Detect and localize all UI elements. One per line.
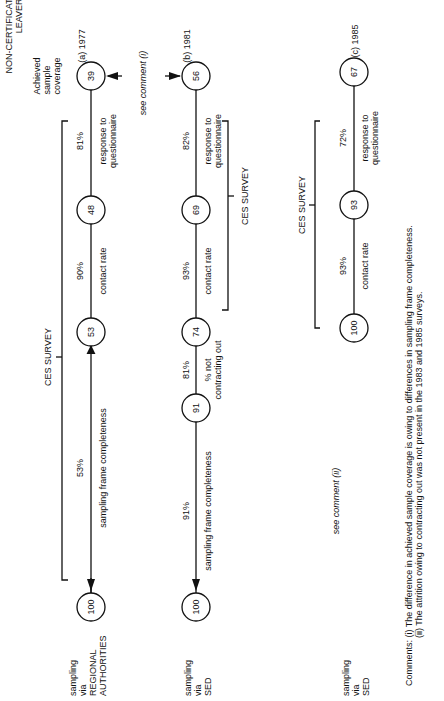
comments: Comments: (i) The difference in achieved… — [404, 225, 424, 686]
source-a-line4: AUTHORITIES — [98, 635, 108, 696]
pct-b-1: 91% — [181, 502, 191, 520]
pct-c-2: 72% — [338, 129, 348, 147]
pct-b-2: 81% — [181, 361, 191, 379]
source-label-a: sampling via REGIONAL AUTHORITIES — [68, 635, 108, 696]
source-b-line1: sampling — [183, 660, 193, 696]
pct-a-3: 81% — [75, 132, 85, 150]
step-b-2-line1: % not — [203, 340, 213, 399]
comments-prefix: Comments: — [404, 640, 414, 686]
node-b-start: 100 — [191, 599, 201, 614]
bracket-label-c: CES SURVEY — [297, 176, 307, 234]
coverage-label-line1: Achieved — [32, 57, 42, 94]
node-a-3: 48 — [86, 205, 96, 215]
coverage-label-line2: sample — [42, 57, 52, 94]
group-title: NON-CERTIFICATE LEAVERS — [4, 0, 24, 74]
step-b-4: response to questionnaire — [203, 114, 223, 168]
survey-attrition-diagram: NON-CERTIFICATE LEAVERS Achieved sample … — [0, 0, 444, 701]
year-label-c: (c) 1985 — [350, 24, 360, 57]
source-c-line3: SED — [361, 660, 371, 696]
pct-b-3: 93% — [181, 262, 191, 280]
step-c-2: response to questionnaire — [360, 111, 380, 165]
node-a-final: 39 — [86, 71, 96, 81]
step-b-3: contact rate — [203, 247, 213, 294]
node-b-4: 69 — [191, 205, 201, 215]
pct-a-1: 53% — [75, 459, 85, 477]
step-b-2: % not contracting out — [203, 340, 223, 399]
step-c-2-line1: response to — [360, 111, 370, 165]
node-a-2: 53 — [86, 327, 96, 337]
step-b-4-line2: questionnaire — [213, 114, 223, 168]
coverage-label: Achieved sample coverage — [32, 57, 62, 94]
step-a-2: contact rate — [98, 247, 108, 294]
source-a-line3: REGIONAL — [88, 635, 98, 696]
node-b-final: 56 — [191, 71, 201, 81]
node-c-2: 93 — [349, 200, 359, 210]
pct-c-1: 93% — [338, 257, 348, 275]
step-c-2-line2: questionnaire — [370, 111, 380, 165]
step-c-1: contact rate — [360, 242, 370, 289]
source-label-b: sampling via SED — [183, 660, 213, 696]
source-b-line3: SED — [203, 660, 213, 696]
comment-i: (i) The difference in achieved sample co… — [404, 225, 414, 637]
group-title-line2: LEAVERS — [14, 0, 24, 74]
source-b-line2: via — [193, 660, 203, 696]
step-a-3-line2: questionnaire — [108, 114, 118, 168]
source-a-line2: via — [78, 635, 88, 696]
source-a-line1: sampling — [68, 635, 78, 696]
node-c-start: 100 — [349, 320, 359, 335]
group-title-line1: NON-CERTIFICATE — [4, 0, 14, 74]
year-label-a: (a) 1977 — [77, 29, 87, 63]
step-b-4-line1: response to — [203, 114, 213, 168]
bracket-label-a: CES SURVEY — [43, 328, 53, 386]
node-c-final: 67 — [349, 67, 359, 77]
bracket-label-b: CES SURVEY — [240, 167, 250, 225]
step-b-1: sampling frame completeness — [203, 451, 213, 571]
step-a-3: response to questionnaire — [98, 114, 118, 168]
pct-a-2: 90% — [75, 262, 85, 280]
pct-b-4: 82% — [181, 132, 191, 150]
step-a-3-line1: response to — [98, 114, 108, 168]
node-a-start: 100 — [86, 599, 96, 614]
comparison-note: see comment (i) — [138, 51, 148, 116]
year-label-b: (b) 1981 — [182, 29, 192, 63]
source-label-c: sampling via SED — [341, 660, 371, 696]
coverage-label-line3: coverage — [52, 57, 62, 94]
source-c-line1: sampling — [341, 660, 351, 696]
source-c-line2: via — [351, 660, 361, 696]
step-a-1: sampling frame completeness — [98, 408, 108, 528]
comment-ii-note: see comment (ii) — [331, 468, 341, 535]
node-b-3: 74 — [191, 327, 201, 337]
node-b-2: 91 — [191, 403, 201, 413]
step-b-2-line2: contracting out — [213, 340, 223, 399]
comment-ii: (ii) The attrition owing to contracting … — [414, 225, 424, 686]
